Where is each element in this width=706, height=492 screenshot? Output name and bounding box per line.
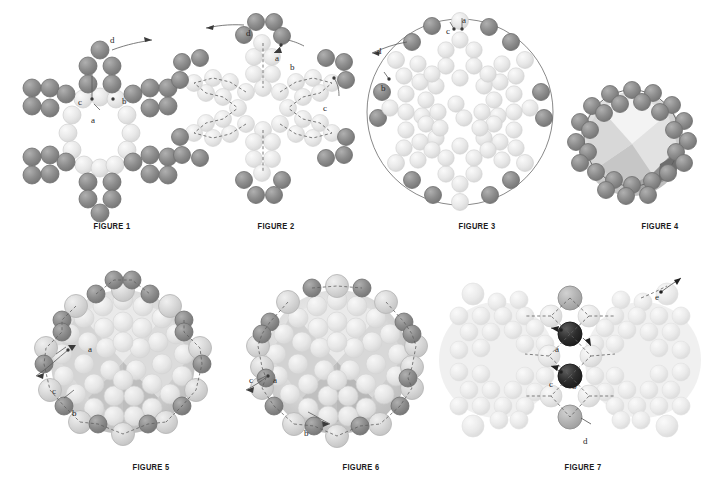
figure-2-label-c: c — [323, 104, 327, 113]
figure-4 — [560, 78, 705, 213]
figure-2 — [168, 0, 358, 212]
figure-5-label-b: b — [72, 409, 77, 418]
figure-7 — [455, 272, 685, 452]
figure-2-label-b: b — [290, 63, 295, 72]
figure-1-label-d: d — [110, 36, 115, 45]
figure-7-right-ball — [585, 283, 701, 437]
figure-7-label-c: c — [549, 380, 553, 389]
figure-6-label-c: c — [249, 376, 253, 385]
figure-sheet: d c a b d a b c a c d b a c b c a b e a … — [0, 0, 706, 492]
caption-figure-6: FIGURE 6 — [343, 462, 380, 472]
figure-1-dark-beads — [23, 41, 177, 222]
figure-3-label-b: b — [381, 84, 386, 93]
figure-2-thread-paths — [194, 43, 332, 173]
caption-figure-4: FIGURE 4 — [642, 221, 679, 231]
figure-3-label-c: c — [446, 27, 450, 36]
figure-7-label-b: b — [572, 382, 577, 391]
figure-5 — [18, 272, 228, 452]
figure-7-label-e: e — [655, 293, 659, 302]
figure-6-label-b: b — [304, 429, 309, 438]
figure-6-label-a: a — [273, 376, 277, 385]
caption-figure-2: FIGURE 2 — [258, 221, 295, 231]
caption-figure-7: FIGURE 7 — [565, 462, 602, 472]
figure-7-left-ball — [439, 283, 555, 437]
figure-7-label-d: d — [583, 437, 588, 446]
caption-figure-3: FIGURE 3 — [459, 221, 496, 231]
figure-6 — [232, 272, 442, 452]
caption-figure-5: FIGURE 5 — [133, 462, 170, 472]
figure-1-label-b: b — [122, 97, 127, 106]
figure-3-label-d: d — [377, 47, 382, 56]
figure-3 — [360, 0, 560, 215]
figure-7-connector-beads — [538, 286, 602, 429]
figure-5-label-a: a — [88, 345, 92, 354]
figure-3-inner-net-beads — [382, 32, 538, 192]
figure-2-label-d: d — [246, 29, 251, 38]
figure-7-label-a: a — [555, 345, 559, 354]
figure-1-label-c: c — [78, 98, 82, 107]
caption-figure-1: FIGURE 1 — [94, 221, 131, 231]
figure-5-label-c: c — [52, 387, 56, 396]
figure-3-label-a: a — [462, 16, 466, 25]
figure-1-label-a: a — [91, 116, 95, 125]
figure-2-label-a: a — [275, 54, 279, 63]
